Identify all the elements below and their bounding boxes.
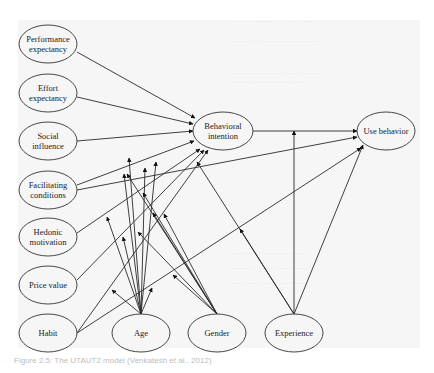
node-label: conditions: [30, 190, 65, 200]
node-label: Effort: [38, 83, 59, 93]
node-label: expectancy: [29, 44, 68, 54]
node-ub: Use behavior: [357, 112, 415, 150]
node-gender: Gender: [188, 314, 246, 352]
moderator-arrow: [173, 275, 217, 314]
node-habit: Habit: [19, 314, 77, 352]
node-label: Behavioral: [204, 121, 242, 131]
node-label: Facilitating: [29, 180, 68, 190]
node-label: motivation: [30, 237, 68, 247]
moderator-arrow: [129, 158, 141, 314]
node-pe: Performanceexpectancy: [19, 25, 77, 63]
path-arrow: [77, 150, 204, 280]
node-label: Age: [134, 328, 148, 338]
path-arrow: [77, 97, 193, 124]
node-label: Hedonic: [34, 227, 63, 237]
utaut2-diagram: PerformanceexpectancyEffortexpectancySoc…: [0, 0, 434, 373]
node-label: influence: [32, 141, 64, 151]
node-label: Performance: [26, 34, 70, 44]
node-label: Price value: [29, 280, 67, 290]
nodes-layer: PerformanceexpectancyEffortexpectancySoc…: [19, 25, 415, 352]
moderator-arrow: [294, 145, 363, 314]
node-label: Experience: [275, 328, 313, 338]
node-pv: Price value: [19, 266, 77, 304]
node-label: intention: [208, 131, 239, 141]
edges-layer: [77, 52, 363, 333]
node-label: Social: [37, 131, 59, 141]
node-ee: Effortexpectancy: [19, 74, 77, 112]
node-bi: Behavioralintention: [193, 112, 253, 150]
moderator-arrow: [153, 213, 217, 314]
node-label: Use behavior: [363, 126, 408, 136]
moderator-arrow: [138, 232, 217, 314]
node-label: Gender: [204, 328, 229, 338]
node-label: Habit: [39, 328, 59, 338]
node-label: expectancy: [29, 93, 68, 103]
moderator-arrow: [164, 214, 217, 314]
node-exp: Experience: [265, 314, 323, 352]
path-arrow: [77, 148, 361, 333]
node-fc: Facilitatingconditions: [19, 171, 77, 209]
figure-caption: Figure 2.5: The UTAUT2 model (Venkatesh …: [14, 356, 212, 365]
path-arrow: [77, 52, 195, 118]
moderator-arrow: [240, 229, 294, 314]
node-age: Age: [112, 314, 170, 352]
path-arrow: [77, 131, 193, 141]
node-si: Socialinfluence: [19, 122, 77, 160]
node-hm: Hedonicmotivation: [19, 218, 77, 256]
